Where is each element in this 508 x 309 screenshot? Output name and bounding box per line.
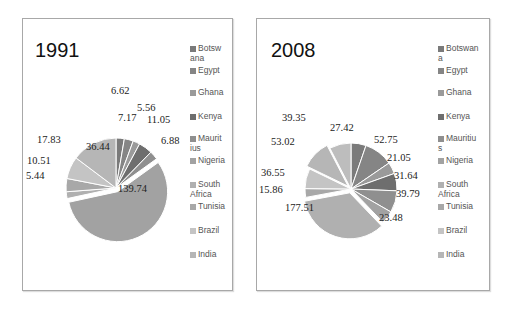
- legend-label: Kenya: [198, 111, 222, 121]
- legend-label: Brazil: [446, 225, 467, 235]
- legend-swatch: [438, 90, 444, 96]
- legend-label: Brazil: [198, 225, 219, 235]
- legend-swatch: [190, 90, 196, 96]
- slice-label: 15.86: [259, 184, 283, 195]
- legend-swatch: [438, 46, 444, 52]
- legend-swatch: [438, 136, 444, 142]
- slice-label: 21.05: [387, 152, 411, 163]
- legend-item: Nigeria: [438, 155, 473, 165]
- legend-label: Nigeria: [198, 155, 225, 165]
- slice-label: 39.79: [396, 188, 420, 199]
- legend-label: Egypt: [446, 65, 468, 75]
- legend-item: Nigeria: [190, 155, 225, 165]
- legend-item: Brazil: [438, 225, 467, 235]
- slice-label: 177.51: [285, 202, 314, 213]
- legend-swatch: [190, 252, 196, 258]
- slice-label: 17.83: [37, 134, 61, 145]
- legend-swatch: [190, 68, 196, 74]
- chart-2008: 2008 27.4252.7521.0531.6439.7923.48177.5…: [256, 18, 490, 291]
- legend-item: Brazil: [190, 225, 219, 235]
- legend-item: Egypt: [438, 65, 468, 75]
- slice-label: 5.56: [137, 102, 155, 113]
- legend-item: India: [190, 249, 216, 259]
- slice-label: 6.88: [161, 135, 179, 146]
- slice-label: 36.44: [86, 141, 110, 152]
- legend-swatch: [438, 158, 444, 164]
- legend-item: Tunisia: [438, 201, 473, 211]
- legend-item: Kenya: [438, 111, 470, 121]
- slice-label: 36.55: [261, 167, 285, 178]
- legend-item: Botswan a: [438, 43, 479, 63]
- legend-item: Ghana: [438, 87, 472, 97]
- chart-1991: 1991 6.627.175.5611.056.88139.745.4410.5…: [22, 18, 233, 291]
- slice-label: 31.64: [394, 170, 418, 181]
- slice-label: 10.51: [27, 155, 51, 166]
- legend-label: Botswan a: [438, 43, 479, 63]
- legend-swatch: [190, 114, 196, 120]
- legend-label: Egypt: [198, 65, 220, 75]
- legend-swatch: [190, 158, 196, 164]
- legend-label: India: [198, 249, 216, 259]
- legend-swatch: [190, 182, 196, 188]
- legend-item: South Africa: [190, 179, 220, 199]
- legend-label: Ghana: [446, 87, 472, 97]
- legend-swatch: [190, 136, 196, 142]
- slice-label: 23.48: [379, 212, 403, 223]
- legend-swatch: [190, 228, 196, 234]
- slice-label: 5.44: [26, 170, 45, 181]
- legend-swatch: [190, 204, 196, 210]
- legend-label: India: [446, 249, 464, 259]
- legend-item: Egypt: [190, 65, 220, 75]
- legend-item: South Africa: [438, 179, 468, 199]
- legend-item: Tunisia: [190, 201, 225, 211]
- slice-label: 27.42: [330, 122, 354, 133]
- slice-label: 39.35: [282, 112, 306, 123]
- legend-label: Nigeria: [446, 155, 473, 165]
- legend-label: Tunisia: [198, 201, 225, 211]
- legend-swatch: [438, 228, 444, 234]
- legend-swatch: [438, 114, 444, 120]
- legend-item: Mauritiu s: [438, 133, 476, 153]
- legend-swatch: [190, 46, 196, 52]
- legend-label: Tunisia: [446, 201, 473, 211]
- legend-swatch: [438, 252, 444, 258]
- legend-item: Maurit ius: [190, 133, 222, 153]
- legend-item: Kenya: [190, 111, 222, 121]
- slice-label: 7.17: [118, 112, 136, 123]
- slice-label: 6.62: [111, 85, 129, 96]
- slice-label: 11.05: [147, 114, 170, 125]
- legend-swatch: [438, 68, 444, 74]
- legend-item: Botsw ana: [190, 43, 221, 63]
- slice-label: 139.74: [118, 183, 148, 194]
- legend-item: Ghana: [190, 87, 224, 97]
- legend-item: India: [438, 249, 464, 259]
- legend-label: Ghana: [198, 87, 224, 97]
- slice-label: 53.02: [271, 136, 295, 147]
- legend-swatch: [438, 204, 444, 210]
- legend-swatch: [438, 182, 444, 188]
- slice-label: 52.75: [374, 134, 398, 145]
- legend-label: Kenya: [446, 111, 470, 121]
